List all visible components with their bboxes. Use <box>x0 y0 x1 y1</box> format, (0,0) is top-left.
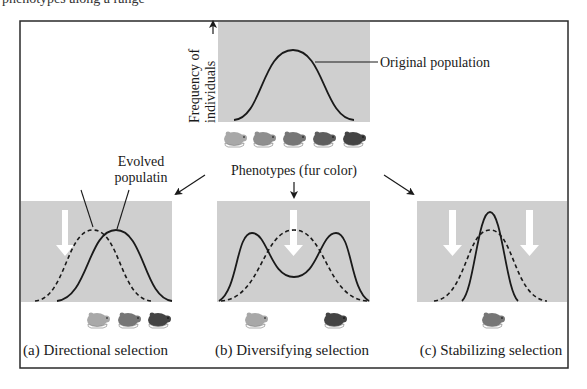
mouse-icon-light <box>253 132 276 147</box>
mouse-icon-medium <box>482 313 505 328</box>
original-population-label: Original population <box>380 55 490 70</box>
mouse-icon-dark <box>313 132 336 147</box>
directional-selection-panel: Evolved populatin (a) Directional select… <box>21 154 172 359</box>
y-axis-label-line1: Frequency of <box>187 48 202 123</box>
mouse-icon-medium <box>283 132 306 147</box>
stabilizing-selection-panel: (c) Stabilizing selection <box>417 201 567 359</box>
mouse-icon-light <box>87 313 110 328</box>
x-axis-label: Phenotypes (fur color) <box>231 163 357 179</box>
mouse-icon-medium <box>118 313 141 328</box>
diversifying-selection-panel: (b) Diversifying selection <box>215 201 370 359</box>
mouse-icon-dark <box>324 313 347 328</box>
original-panel-background <box>218 22 370 122</box>
arrow-to-stabilizing-icon <box>384 175 413 194</box>
evolved-population-label-line2: populatin <box>115 170 168 185</box>
evolved-population-label-line1: Evolved <box>118 154 165 169</box>
y-axis-label-line2: individuals <box>203 61 218 123</box>
natural-selection-diagram: Original population Frequency of individ… <box>0 0 587 389</box>
mouse-icon-dark <box>148 313 171 328</box>
mouse-icon-darkest <box>343 132 366 147</box>
arrow-to-directional-icon <box>176 175 205 194</box>
original-population-panel: Original population Frequency of individ… <box>187 22 490 179</box>
phenotype-mice-row <box>224 132 366 147</box>
panel-b-caption: (b) Diversifying selection <box>215 342 370 359</box>
mouse-icon-lightest <box>224 132 247 147</box>
panel-c-background <box>417 201 567 302</box>
panel-a-background <box>21 201 172 302</box>
panel-c-caption: (c) Stabilizing selection <box>420 342 563 359</box>
panel-a-caption: (a) Directional selection <box>23 342 168 359</box>
mouse-icon-light <box>245 313 268 328</box>
